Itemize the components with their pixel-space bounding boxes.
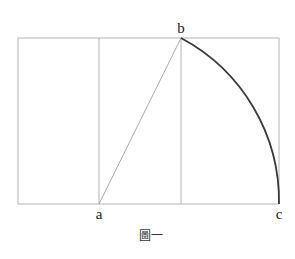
label-c: c: [276, 206, 283, 222]
geometry-figure: b a c 圖一: [0, 0, 295, 259]
label-a: a: [96, 206, 103, 222]
label-b: b: [177, 20, 185, 36]
outer-rectangle: [18, 38, 279, 204]
arc-bc: [181, 38, 279, 204]
diagonal-ab: [99, 38, 181, 204]
figure-caption: 圖一: [139, 229, 163, 243]
